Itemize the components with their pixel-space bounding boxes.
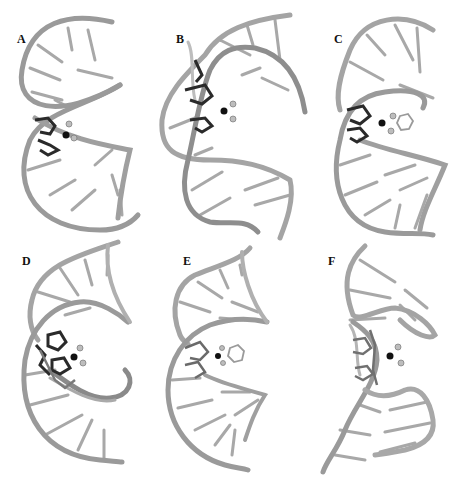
panel-a: A — [0, 0, 150, 240]
panel-d: D — [0, 240, 150, 479]
panel-c: C — [305, 0, 459, 240]
panel-e: E — [150, 240, 305, 479]
dna-structure-a — [0, 0, 150, 240]
panel-b: B — [150, 0, 305, 240]
dna-structure-c — [305, 0, 459, 240]
panel-f: F — [305, 240, 459, 479]
dna-structure-f — [305, 240, 459, 479]
dna-structure-d — [0, 240, 150, 479]
dna-structure-b — [150, 0, 305, 240]
dna-structure-e — [150, 240, 305, 479]
